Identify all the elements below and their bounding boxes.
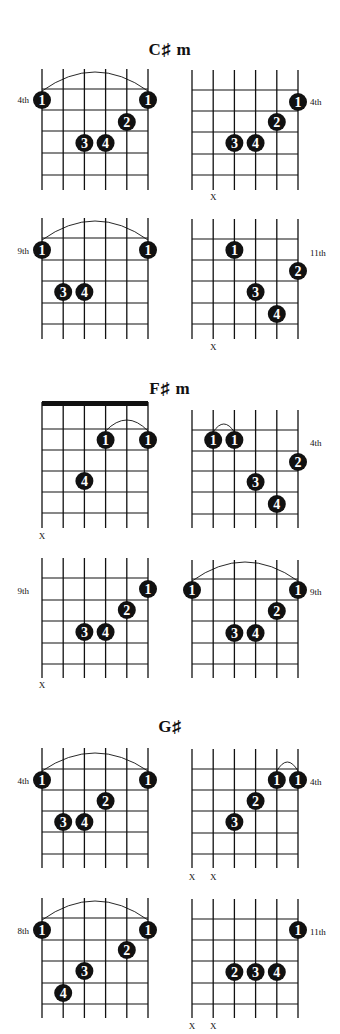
finger-number: 1 — [273, 773, 280, 788]
finger-dot: 1 — [289, 93, 307, 111]
finger-dot: 4 — [247, 624, 265, 642]
finger-number: 1 — [39, 93, 46, 108]
finger-number: 1 — [231, 433, 238, 448]
finger-dot: 3 — [225, 134, 243, 152]
barre-arc — [42, 753, 148, 771]
fret-position-label: 8th — [17, 926, 29, 936]
finger-number: 3 — [81, 964, 88, 979]
finger-number: 1 — [189, 583, 196, 598]
chord-diagram: 12344thX — [192, 70, 322, 202]
finger-dot: 4 — [75, 472, 93, 490]
fret-position-label: 4th — [17, 776, 29, 786]
finger-dot: 1 — [139, 580, 157, 598]
finger-dot: 3 — [54, 813, 72, 831]
muted-string-x: X — [210, 872, 217, 882]
finger-number: 3 — [231, 815, 238, 830]
fret-position-label: 9th — [310, 587, 322, 597]
barre-arc — [192, 562, 298, 581]
finger-number: 1 — [145, 773, 152, 788]
finger-number: 4 — [252, 626, 259, 641]
muted-string-x: X — [210, 1021, 217, 1031]
chord-diagram: 112344th — [192, 410, 322, 528]
fret-position-label: 4th — [310, 438, 322, 448]
chord-diagram: 11234thXX — [189, 749, 322, 882]
finger-dot: 4 — [268, 963, 286, 981]
finger-dot: 4 — [75, 813, 93, 831]
finger-number: 2 — [273, 604, 280, 619]
chord-chart-sheet: 112344th12344thX11349th123411thX114X1123… — [0, 0, 340, 1034]
finger-number: 1 — [145, 243, 152, 258]
finger-number: 1 — [295, 95, 302, 110]
finger-number: 2 — [273, 115, 280, 130]
finger-number: 3 — [231, 626, 238, 641]
finger-number: 1 — [295, 583, 302, 598]
fret-position-label: 4th — [310, 777, 322, 787]
finger-number: 3 — [252, 475, 259, 490]
fret-position-label: 11th — [310, 927, 326, 937]
chord-diagram: 114X — [39, 401, 157, 541]
finger-number: 4 — [252, 136, 259, 151]
chord-diagram: 112348th — [17, 898, 157, 1018]
fret-position-label: 9th — [17, 246, 29, 256]
finger-number: 2 — [123, 603, 130, 618]
muted-string-x: X — [189, 872, 196, 882]
finger-dot: 1 — [204, 431, 222, 449]
finger-number: 4 — [102, 625, 109, 640]
fret-position-label: 4th — [17, 95, 29, 105]
finger-dot: 2 — [289, 453, 307, 471]
finger-dot: 4 — [75, 283, 93, 301]
muted-string-x: X — [210, 192, 217, 202]
finger-dot: 3 — [225, 813, 243, 831]
finger-dot: 1 — [33, 921, 51, 939]
chord-diagram: 12349thX — [17, 558, 157, 690]
fret-position-label: 11th — [310, 248, 326, 258]
finger-dot: 4 — [247, 134, 265, 152]
finger-dot: 1 — [139, 921, 157, 939]
finger-number: 2 — [102, 794, 109, 809]
finger-number: 4 — [81, 815, 88, 830]
fret-position-label: 9th — [17, 586, 29, 596]
muted-string-x: X — [189, 1021, 196, 1031]
finger-number: 1 — [210, 433, 217, 448]
barre-arc — [42, 901, 148, 920]
finger-dot: 3 — [75, 623, 93, 641]
finger-dot: 1 — [139, 431, 157, 449]
finger-dot: 2 — [97, 792, 115, 810]
finger-dot: 1 — [139, 91, 157, 109]
finger-number: 3 — [81, 625, 88, 640]
finger-dot: 3 — [75, 134, 93, 152]
finger-dot: 2 — [268, 602, 286, 620]
finger-number: 2 — [123, 115, 130, 130]
chord-diagram: 123411thXX — [189, 899, 326, 1031]
finger-number: 2 — [231, 965, 238, 980]
finger-number: 1 — [145, 923, 152, 938]
finger-number: 1 — [145, 93, 152, 108]
finger-number: 1 — [231, 243, 238, 258]
finger-number: 3 — [252, 285, 259, 300]
finger-number: 1 — [295, 923, 302, 938]
finger-dot: 3 — [247, 473, 265, 491]
finger-number: 4 — [81, 474, 88, 489]
finger-number: 1 — [145, 582, 152, 597]
finger-dot: 3 — [225, 624, 243, 642]
finger-dot: 3 — [247, 963, 265, 981]
finger-number: 3 — [60, 285, 67, 300]
finger-dot: 1 — [33, 241, 51, 259]
finger-number: 1 — [39, 773, 46, 788]
finger-dot: 1 — [139, 771, 157, 789]
finger-number: 4 — [102, 136, 109, 151]
finger-number: 2 — [252, 794, 259, 809]
finger-number: 4 — [273, 497, 280, 512]
barre-arc — [213, 424, 234, 432]
finger-number: 2 — [123, 943, 130, 958]
finger-number: 2 — [295, 264, 302, 279]
finger-dot: 4 — [268, 495, 286, 513]
finger-dot: 1 — [289, 921, 307, 939]
chord-diagram: 123411thX — [192, 219, 326, 352]
finger-number: 3 — [252, 965, 259, 980]
finger-number: 1 — [295, 773, 302, 788]
finger-dot: 1 — [33, 91, 51, 109]
finger-number: 3 — [81, 136, 88, 151]
finger-dot: 4 — [97, 623, 115, 641]
finger-dot: 2 — [118, 941, 136, 959]
